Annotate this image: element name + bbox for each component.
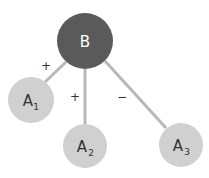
edges <box>45 61 166 128</box>
interaction-diagram: + + − B A 1 A 2 A 3 <box>0 0 209 178</box>
sign-b-a2: + <box>70 90 80 104</box>
sign-b-a1: + <box>41 59 51 73</box>
node-a3-subscript: 3 <box>184 147 190 157</box>
node-a2-label: A <box>77 138 88 156</box>
node-a2-subscript: 2 <box>88 148 94 158</box>
node-a1: A 1 <box>8 77 54 123</box>
sign-b-a3: − <box>117 90 127 104</box>
node-a1-subscript: 1 <box>33 102 39 112</box>
node-a2: A 2 <box>63 124 107 168</box>
node-b: B <box>57 13 113 69</box>
node-b-label: B <box>80 33 90 51</box>
edge-b-a3 <box>105 61 166 128</box>
node-a3: A 3 <box>159 123 203 167</box>
node-a3-label: A <box>173 137 184 155</box>
